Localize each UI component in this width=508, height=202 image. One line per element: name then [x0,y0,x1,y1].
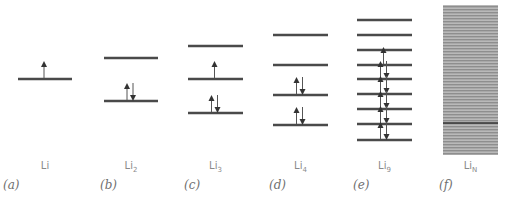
species-name: Li [464,160,472,171]
species-name: Li [41,160,49,171]
panel-a [18,61,72,79]
spin-up-arrow-icon [41,61,47,67]
species-label-a: Li [15,160,75,171]
panel-label-f: (f) [439,178,453,192]
spin-up-arrow-icon [294,77,300,83]
species-label-e: Li9 [355,160,415,174]
spin-up-arrow-icon [212,61,218,67]
spin-up-arrow-icon [294,107,300,113]
species-label-d: Li4 [271,160,331,174]
panel-label-c: (c) [184,178,200,192]
panel-f [443,5,498,155]
species-subscript: 2 [133,166,137,174]
energy-band [443,5,498,155]
species-label-b: Li2 [101,160,161,174]
spin-up-arrow-icon [124,83,130,89]
species-subscript: 9 [386,166,390,174]
panel-b [104,58,158,101]
panel-label-d: (d) [269,178,286,192]
panel-label-b: (b) [100,178,117,192]
species-name: Li [125,160,133,171]
panel-c [188,46,243,113]
species-subscript: 4 [302,166,306,174]
species-label-f: LiN [441,160,501,174]
species-label-c: Li3 [186,160,246,174]
species-subscript: 3 [217,166,221,174]
panel-d [273,35,328,125]
spin-up-arrow-icon [209,95,215,101]
species-subscript: N [472,166,477,174]
panel-label-a: (a) [3,178,20,192]
energy-level-diagram [0,0,508,202]
panel-e [357,20,412,140]
panel-label-e: (e) [353,178,369,192]
